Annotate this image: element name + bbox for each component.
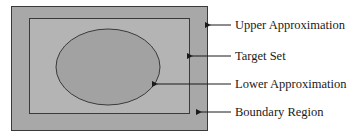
lower-approximation-ellipse [56, 29, 160, 105]
target-set-label: Target Set [235, 50, 286, 63]
lower-approximation-label: Lower Approximation [235, 78, 346, 91]
boundary-region-label: Boundary Region [235, 106, 324, 119]
upper-approximation-label: Upper Approximation [235, 19, 345, 32]
